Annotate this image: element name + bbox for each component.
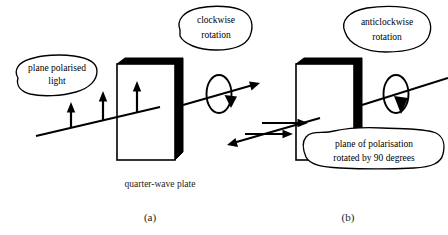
callout-plane-of-polarisation: plane of polarisation rotated by 90 degr… xyxy=(303,128,444,169)
polarisation-arrow-1 xyxy=(67,102,75,128)
panel-label-b: (b) xyxy=(342,211,355,224)
callout-anticlockwise-rotation: anticlockwise rotation xyxy=(344,6,431,52)
callout-plane-of-polarisation-line2: rotated by 90 degrees xyxy=(333,153,415,163)
polarisation-arrow-2 xyxy=(99,91,107,121)
outgoing-ray-a xyxy=(183,82,260,106)
callout-plane-polarised-light-line2: light xyxy=(48,76,66,86)
callout-plane-polarised-light-line1: plane polarised xyxy=(28,63,86,73)
caption-quarter-wave-plate: quarter-wave plate xyxy=(125,179,196,189)
callout-plane-polarised-light: plane polarised light xyxy=(16,55,97,96)
panel-label-a: (a) xyxy=(144,211,157,224)
callout-anticlockwise-rotation-line1: anticlockwise xyxy=(361,17,413,27)
callout-anticlockwise-rotation-line2: rotation xyxy=(372,32,402,42)
callout-clockwise-rotation-line1: clockwise xyxy=(197,15,235,25)
callout-clockwise-rotation: clockwise rotation xyxy=(179,6,252,50)
panel-b: anticlockwise rotation xyxy=(227,6,448,224)
quarter-wave-plate-figure: plane polarised light clockwise rotation xyxy=(0,0,448,235)
callout-clockwise-rotation-line2: rotation xyxy=(201,30,231,40)
panel-a: plane polarised light clockwise rotation xyxy=(16,6,260,224)
callout-plane-of-polarisation-line1: plane of polarisation xyxy=(335,139,413,149)
